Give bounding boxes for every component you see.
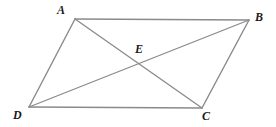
geometry-figure: A B C D E [0,0,276,127]
side-CD-line [29,107,202,108]
diagonal-BD-line [29,20,249,107]
parallelogram-svg [0,0,276,127]
side-AB-line [75,19,249,20]
vertex-label-c: C [202,110,210,122]
vertex-label-a: A [57,4,65,16]
side-DA-line [29,19,75,107]
vertex-label-e: E [135,43,143,55]
vertex-label-d: D [13,109,22,121]
vertex-label-b: B [255,11,263,23]
side-BC-line [202,20,249,108]
